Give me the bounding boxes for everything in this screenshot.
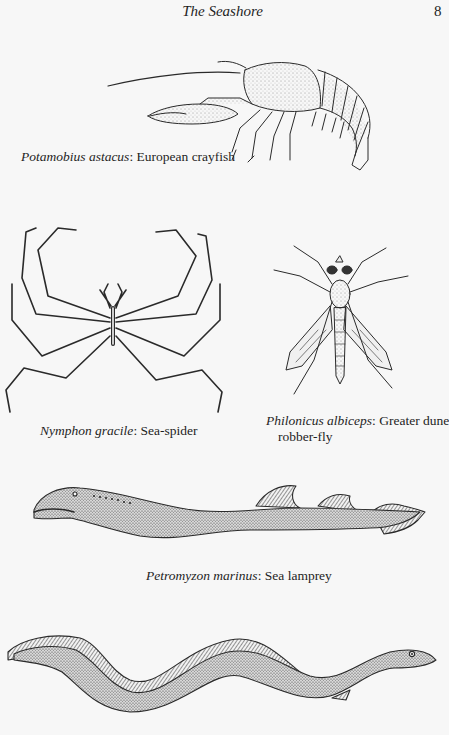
eel-illustration	[0, 0, 445, 735]
